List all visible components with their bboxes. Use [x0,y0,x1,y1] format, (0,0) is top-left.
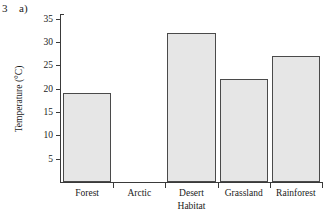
figure-number-label: 3 [2,2,8,14]
x-axis-category-label: Forest [61,188,113,199]
y-axis-tick-label: 5 [48,154,53,164]
x-axis-tick [322,183,323,188]
y-axis-tick-label: 10 [44,130,54,140]
y-axis-tick-label: 20 [44,84,54,94]
bar-slot [218,14,270,182]
bar-series-group [61,14,322,182]
x-axis-title: Habitat [60,201,323,212]
y-axis-tick-label: 25 [44,60,54,70]
bar[interactable] [167,33,215,182]
bar[interactable] [272,56,320,182]
x-axis-category-label: Grassland [218,188,270,199]
bar[interactable] [220,79,268,182]
y-axis-title: Temperature (°C) [14,39,24,159]
y-axis-tick-label: 30 [44,37,54,47]
x-axis-category-label: Rainforest [270,188,322,199]
bar-slot [61,14,113,182]
x-axis-line [60,182,323,183]
bar-slot [113,14,165,182]
y-axis-tick-label: 15 [44,107,54,117]
bar-slot [165,14,217,182]
bar[interactable] [63,93,111,182]
figure-part-label: a) [19,2,28,14]
x-axis-category-label: Arctic [113,188,165,199]
y-axis-tick-label: 35 [44,14,54,24]
bar-slot [270,14,322,182]
figure-container: 3 a) 5101520253035 Temperature (°C) Fore… [0,0,325,217]
x-axis-category-label: Desert [165,188,217,199]
